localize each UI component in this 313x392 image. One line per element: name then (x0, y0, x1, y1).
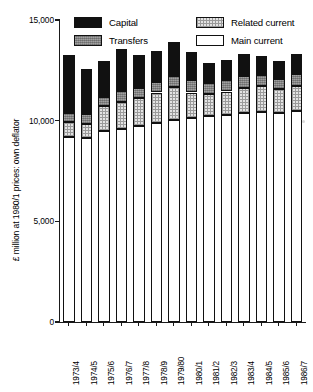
legend-swatch-related-current-icon (196, 17, 224, 28)
bar-segment-transfers (221, 80, 233, 91)
bar-segment-related (168, 87, 180, 119)
legend-entry-related-current: Related current (196, 17, 294, 28)
x-tick-label: 1976/7 (125, 361, 134, 385)
bar-segment-transfers (81, 114, 93, 124)
bar-segment-capital (203, 63, 215, 83)
bar-segment-transfers (203, 83, 215, 93)
bar-segment-related (116, 102, 128, 129)
scan-artifact (302, 120, 305, 123)
bar-segment-main (133, 126, 145, 322)
y-axis-title: £ million at 1980/1 prices: own deflator (11, 80, 21, 300)
x-tick-label: 1986/7 (300, 361, 309, 385)
y-tick-mark (55, 221, 59, 222)
x-tick-label: 1983/4 (247, 361, 256, 385)
legend-row-1: Capital Related current (74, 17, 298, 30)
x-tick-mark (261, 322, 262, 326)
x-tick-label: 1981/2 (212, 361, 221, 385)
x-tick-mark (103, 322, 104, 326)
legend-label-transfers: Transfers (109, 35, 148, 46)
bar-segment-capital (273, 61, 285, 79)
x-tick-mark (138, 322, 139, 326)
bar-segment-related (151, 93, 163, 123)
bar-segment-related (256, 86, 268, 111)
legend-label-related-current: Related current (231, 17, 294, 28)
bar-segment-capital (98, 61, 110, 96)
y-tick-mark (55, 120, 59, 121)
bar-segment-related (221, 92, 233, 115)
y-tick-mark (55, 321, 59, 322)
x-tick-label: 1979/80 (177, 357, 186, 385)
bar-segment-main (98, 131, 110, 322)
legend-label-main-current: Main current (231, 35, 283, 46)
bar-segment-related (238, 88, 250, 112)
bar-segment-related (273, 89, 285, 112)
bar-segment-capital (238, 54, 250, 76)
chart-legend: Capital Related current Transfers Main c… (74, 17, 298, 49)
bar-1983-4 (238, 54, 250, 322)
bar-segment-transfers (186, 80, 198, 92)
bar-segment-main (168, 120, 180, 322)
bar-1975-6 (98, 61, 110, 322)
y-tick-label: 0 (49, 317, 54, 327)
x-tick-label: 1982/3 (230, 361, 239, 385)
bar-1986-7 (291, 54, 303, 322)
legend-entry-main-current: Main current (196, 35, 283, 46)
x-tick-label: 1978/9 (160, 361, 169, 385)
legend-row-2: Transfers Main current (74, 35, 298, 48)
bar-segment-transfers (291, 74, 303, 86)
x-tick-mark (68, 322, 69, 326)
x-tick-label: 1980/1 (195, 361, 204, 385)
bar-segment-capital (221, 60, 233, 80)
x-tick-label: 1975/6 (107, 361, 116, 385)
legend-swatch-main-current-icon (196, 35, 224, 46)
x-tick-label: 1977/8 (142, 361, 151, 385)
bar-segment-main (116, 129, 128, 322)
x-tick-mark (86, 322, 87, 326)
y-tick-mark (55, 19, 59, 20)
bar-segment-related (63, 122, 75, 137)
bar-segment-main (186, 118, 198, 322)
x-tick-label: 1973/4 (72, 361, 81, 385)
x-axis-line (59, 322, 306, 323)
bar-segment-capital (116, 49, 128, 91)
bar-segment-related (186, 93, 198, 118)
bar-1980-1 (186, 52, 198, 322)
x-tick-mark (156, 322, 157, 326)
bar-segment-main (256, 112, 268, 322)
y-tick-label: 10,000 (29, 116, 54, 126)
bar-segment-capital (256, 56, 268, 75)
bar-segment-transfers (256, 75, 268, 86)
bar-segment-related (81, 124, 93, 138)
legend-entry-transfers: Transfers (74, 35, 148, 46)
bar-segment-related (203, 94, 215, 116)
y-tick-label: 15,000 (29, 15, 54, 25)
bar-segment-transfers (168, 76, 180, 87)
bar-segment-main (221, 115, 233, 322)
plot-area (60, 20, 305, 322)
x-tick-mark (208, 322, 209, 326)
x-tick-mark (191, 322, 192, 326)
bar-1979-80 (168, 42, 180, 322)
bar-1978-9 (151, 51, 163, 322)
bar-1982-3 (221, 60, 233, 322)
bar-1984-5 (256, 56, 268, 322)
bar-segment-related (291, 86, 303, 110)
x-tick-mark (296, 322, 297, 326)
bar-segment-capital (133, 55, 145, 88)
x-tick-label: 1985/6 (282, 361, 291, 385)
bar-1981-2 (203, 63, 215, 322)
bar-segment-transfers (63, 113, 75, 122)
x-tick-mark (243, 322, 244, 326)
bar-segment-main (151, 123, 163, 322)
x-tick-mark (173, 322, 174, 326)
bar-segment-main (238, 113, 250, 322)
legend-swatch-capital-icon (74, 17, 102, 28)
y-tick-label: 5,000 (34, 216, 54, 226)
bar-segment-related (133, 98, 145, 126)
legend-label-capital: Capital (109, 17, 138, 28)
bar-segment-transfers (98, 97, 110, 106)
bar-segment-main (81, 138, 93, 322)
bar-segment-transfers (151, 82, 163, 92)
bar-1977-8 (133, 55, 145, 322)
bar-1985-6 (273, 61, 285, 322)
